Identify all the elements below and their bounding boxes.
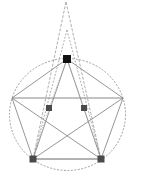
pentagon-edge xyxy=(67,59,123,98)
top-vertex-marker xyxy=(63,55,71,63)
dotted-line xyxy=(33,108,49,159)
dotted-line xyxy=(49,59,67,108)
pentagram-diagram xyxy=(0,0,148,188)
mid-left-marker xyxy=(46,105,52,111)
outer-apex-line xyxy=(33,2,66,159)
circumscribed-circle xyxy=(10,59,126,171)
outer-apex-line xyxy=(66,2,101,159)
bottom-right-marker xyxy=(98,156,105,163)
star-edge xyxy=(12,98,101,159)
pentagon-edge xyxy=(12,59,67,98)
vertex-markers xyxy=(30,55,105,163)
bottom-left-marker xyxy=(30,156,37,163)
mid-right-marker xyxy=(81,105,87,111)
